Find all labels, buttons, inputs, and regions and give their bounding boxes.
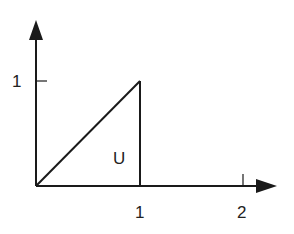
region-label: U — [113, 149, 125, 168]
y-tick-label-1: 1 — [12, 72, 21, 91]
x-tick-label-1: 1 — [135, 203, 144, 222]
x-axis-arrow-icon — [256, 179, 277, 193]
x-tick-label-2: 2 — [237, 203, 246, 222]
y-axis-arrow-icon — [29, 20, 43, 40]
diagram-canvas: U 1 1 2 — [0, 0, 294, 234]
triangle-region — [36, 81, 140, 186]
x-axis — [36, 179, 277, 193]
y-axis — [29, 20, 43, 186]
